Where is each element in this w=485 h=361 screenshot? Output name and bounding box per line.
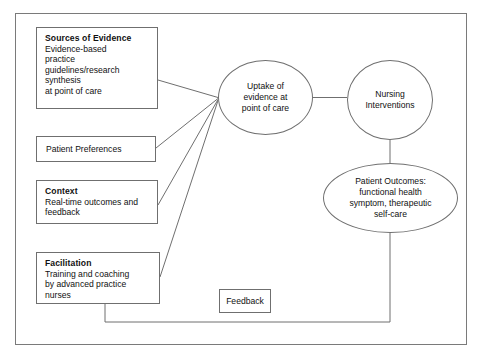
connector-sources-to-uptake <box>158 80 218 98</box>
connector-patient-preferences-to-uptake <box>156 99 218 149</box>
ellipse-outcomes-text: Patient Outcomes: functional health symp… <box>349 176 431 221</box>
box-sources-heading: Sources of Evidence <box>45 33 150 44</box>
box-context-line-1: Real-time outcomes and <box>45 197 150 208</box>
box-sources-line-4: synthesis <box>45 75 150 86</box>
ellipse-nursing-interventions[interactable]: Nursing Interventions <box>347 60 433 140</box>
box-facilitation-heading: Facilitation <box>45 258 152 269</box>
box-facilitation-line-3: nurses <box>45 290 152 301</box>
ellipse-outcomes-line-3: symptom, therapeutic <box>349 198 431 209</box>
ellipse-outcomes-line-2: functional health <box>349 187 431 198</box>
ellipse-uptake-of-evidence[interactable]: Uptake of evidence at point of care <box>218 60 313 135</box>
box-feedback[interactable]: Feedback <box>219 289 271 313</box>
box-patient-preferences-label: Patient Preferences <box>46 144 121 155</box>
ellipse-nursing-line-1: Nursing <box>365 89 414 100</box>
ellipse-outcomes-line-4: self-care <box>349 209 431 220</box>
ellipse-uptake-line-3: point of care <box>242 103 289 114</box>
box-context-heading: Context <box>45 186 150 197</box>
ellipse-uptake-text: Uptake of evidence at point of care <box>242 81 289 115</box>
box-facilitation[interactable]: Facilitation Training and coaching by ad… <box>36 252 160 304</box>
box-sources-of-evidence[interactable]: Sources of Evidence Evidence-based pract… <box>36 27 158 109</box>
ellipse-nursing-line-2: Interventions <box>365 100 414 111</box>
box-feedback-label: Feedback <box>226 296 264 307</box>
ellipse-patient-outcomes[interactable]: Patient Outcomes: functional health symp… <box>323 163 458 233</box>
box-sources-line-1: Evidence-based <box>45 44 150 55</box>
connector-facilitation-to-uptake <box>160 101 218 278</box>
box-context-line-2: feedback <box>45 207 150 218</box>
ellipse-uptake-line-1: Uptake of <box>242 81 289 92</box>
box-patient-preferences[interactable]: Patient Preferences <box>36 136 156 162</box>
box-facilitation-line-2: by advanced practice <box>45 279 152 290</box>
box-sources-line-5: at point of care <box>45 86 150 97</box>
connector-context-to-uptake <box>158 100 218 206</box>
box-sources-line-2: practice <box>45 54 150 65</box>
ellipse-uptake-line-2: evidence at <box>242 92 289 103</box>
diagram-canvas: Sources of Evidence Evidence-based pract… <box>0 0 485 361</box>
box-sources-line-3: guidelines/research <box>45 65 150 76</box>
ellipse-nursing-text: Nursing Interventions <box>365 89 414 111</box>
ellipse-outcomes-line-1: Patient Outcomes: <box>349 176 431 187</box>
box-facilitation-line-1: Training and coaching <box>45 269 152 280</box>
box-context[interactable]: Context Real-time outcomes and feedback <box>36 180 158 224</box>
